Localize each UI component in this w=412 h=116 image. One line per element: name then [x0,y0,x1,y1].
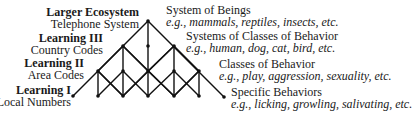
level-subtitle: Telephone System [46,18,139,30]
level-examples: e.g., licking, growling, salivating, etc… [231,98,412,110]
level-examples: e.g., play, aggression, sexuality, etc. [219,70,392,82]
level-examples: e.g., mammals, reptiles, insects, etc. [166,16,339,28]
level-subtitle: Country Codes [31,44,103,56]
level-label-learning-1: Learning I Local Numbers [0,84,71,108]
level-subtitle: Area Codes [24,69,84,81]
level-label-learning-3: Learning III Country Codes [31,32,103,56]
level-label-classes-of-behavior: Classes of Behavior e.g., play, aggressi… [219,58,392,82]
level-label-system-of-beings: System of Beings e.g., mammals, reptiles… [166,4,339,28]
level-label-learning-2: Learning II Area Codes [24,57,84,81]
level-label-specific-behaviors: Specific Behaviors e.g., licking, growli… [231,86,412,110]
level-examples: e.g., human, dog, cat, bird, etc. [186,42,338,54]
level-label-ecosystem: Larger Ecosystem Telephone System [46,6,139,30]
level-label-systems-of-classes: Systems of Classes of Behavior e.g., hum… [186,30,338,54]
level-subtitle: Local Numbers [0,96,71,108]
